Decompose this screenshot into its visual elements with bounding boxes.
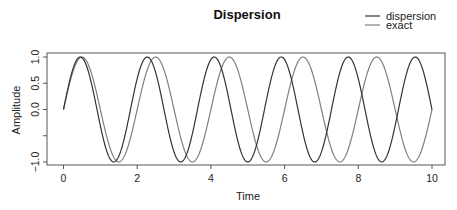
y-tick-label: 0.5	[29, 76, 41, 91]
x-tick-label: 8	[355, 172, 361, 184]
x-tick-label: 2	[134, 172, 140, 184]
y-tick-label: 1.0	[29, 50, 41, 65]
dispersion-chart: Dispersion dispersion exact 0246810 −1.0…	[0, 0, 457, 210]
x-tick-label: 10	[426, 172, 438, 184]
y-tick-label: −1.0	[29, 151, 41, 172]
legend-label-exact: exact	[386, 19, 412, 31]
chart-title: Dispersion	[213, 7, 280, 22]
y-tick-label: 0.0	[29, 102, 41, 117]
x-axis: 0246810	[61, 165, 438, 184]
x-tick-label: 6	[282, 172, 288, 184]
y-axis-label: Amplitude	[10, 86, 22, 135]
series-line-exact	[64, 57, 433, 162]
x-tick-label: 0	[61, 172, 67, 184]
x-tick-label: 4	[208, 172, 214, 184]
legend: dispersion exact	[365, 10, 436, 31]
x-axis-label: Time	[236, 190, 260, 202]
y-axis: −1.00.00.51.0	[29, 50, 47, 173]
